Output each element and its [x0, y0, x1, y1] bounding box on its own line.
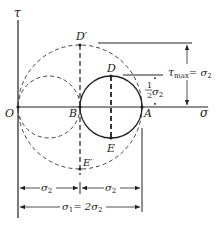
point-E — [109, 136, 112, 139]
label-A: A — [143, 107, 152, 120]
label-D: D — [106, 62, 116, 75]
point-E-prime — [78, 167, 81, 170]
point-D-prime — [78, 43, 81, 46]
label-B: B — [68, 107, 77, 120]
label-D-prime: D′ — [75, 30, 88, 43]
label-E: E — [106, 142, 115, 155]
label-O: O — [5, 107, 14, 120]
point-B — [78, 105, 81, 108]
label-E-prime: E′ — [82, 157, 93, 168]
sigma-axis-label: σ — [200, 106, 209, 120]
mohr-circle-diagram: τ σ O B A D E D′ E′ τmax= σ2 1 2 σ2 σ2 σ… — [0, 0, 216, 226]
point-O — [16, 105, 19, 108]
tau-axis-label: τ — [14, 6, 21, 20]
